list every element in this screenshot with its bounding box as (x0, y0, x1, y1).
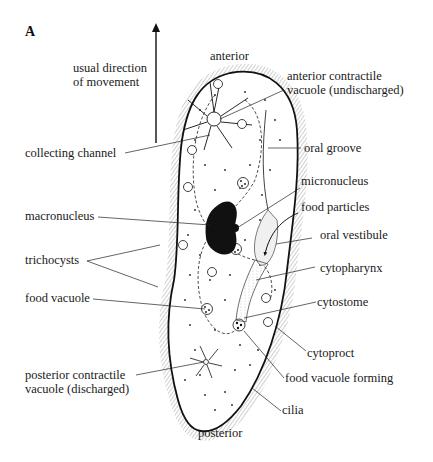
direction-arrow (152, 23, 160, 143)
label-food-vacuole: food vacuole (25, 292, 90, 305)
label-anterior-cv-line2: vacuole (undischarged) (287, 84, 404, 97)
label-micronucleus: micronucleus (301, 175, 368, 188)
direction-label-line2: of movement (73, 76, 139, 89)
label-anterior-cv-line1: anterior contractile (287, 70, 382, 83)
label-food-particles: food particles (301, 201, 369, 214)
label-trichocysts: trichocysts (25, 254, 79, 267)
label-food-vacuole-forming: food vacuole forming (285, 372, 393, 385)
micronucleus (231, 224, 239, 232)
label-cilia: cilia (282, 404, 304, 417)
panel-letter: A (25, 24, 35, 40)
anterior-label: anterior (210, 50, 249, 63)
label-collecting-channel: collecting channel (25, 147, 116, 160)
label-posterior-cv-line1: posterior contractile (25, 369, 125, 382)
label-macronucleus: macronucleus (25, 210, 94, 223)
label-posterior-cv-line2: vacuole (discharged) (25, 383, 129, 396)
label-cytoproct: cytoproct (307, 347, 354, 360)
label-cytopharynx: cytopharynx (320, 262, 382, 275)
label-oral-groove: oral groove (304, 142, 361, 155)
label-cytostome: cytostome (317, 296, 368, 309)
posterior-label: posterior (198, 427, 242, 440)
label-oral-vestibule: oral vestibule (320, 229, 388, 242)
direction-label-line1: usual direction (73, 62, 147, 75)
